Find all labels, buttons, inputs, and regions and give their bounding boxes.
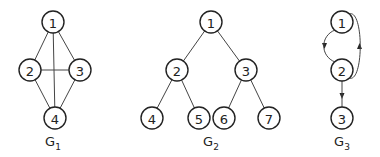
node-label: 1 xyxy=(207,16,215,31)
node-label: 2 xyxy=(338,64,346,79)
g2-node-6: 6 xyxy=(213,107,235,129)
g3-node-3: 3 xyxy=(331,107,353,129)
node-label: 1 xyxy=(49,16,57,31)
g1-label: G1 xyxy=(45,134,61,152)
node-label: 3 xyxy=(242,64,250,79)
arrowhead-icon xyxy=(322,43,327,49)
node-label: 2 xyxy=(173,64,181,79)
node-label: 3 xyxy=(338,112,346,127)
g1-node-3: 3 xyxy=(69,59,91,81)
node-label: 5 xyxy=(195,112,203,127)
g2-node-7: 7 xyxy=(258,107,280,129)
node-label: 2 xyxy=(26,64,34,79)
g2-node-2: 2 xyxy=(166,59,188,81)
node-label: 3 xyxy=(76,64,84,79)
g3-label: G3 xyxy=(334,134,350,152)
node-label: 4 xyxy=(51,112,59,127)
g1-node-4: 4 xyxy=(44,107,66,129)
node-label: 4 xyxy=(148,112,156,127)
g2-node-3: 3 xyxy=(235,59,257,81)
nodes-layer: 12341234567123 xyxy=(19,11,353,129)
graph-diagram-canvas: 12341234567123 G1G2G3 xyxy=(0,0,380,157)
g3-node-1: 1 xyxy=(331,11,353,33)
g1-node-1: 1 xyxy=(42,11,64,33)
g1-node-2: 2 xyxy=(19,59,41,81)
node-label: 1 xyxy=(338,16,346,31)
g2-node-1: 1 xyxy=(200,11,222,33)
node-label: 7 xyxy=(265,112,273,127)
labels-layer: G1G2G3 xyxy=(45,134,350,152)
g2-node-4: 4 xyxy=(141,107,163,129)
node-label: 6 xyxy=(220,112,228,127)
g3-node-2: 2 xyxy=(331,59,353,81)
g2-label: G2 xyxy=(203,134,219,152)
arrowhead-icon xyxy=(357,43,362,49)
g2-node-5: 5 xyxy=(188,107,210,129)
